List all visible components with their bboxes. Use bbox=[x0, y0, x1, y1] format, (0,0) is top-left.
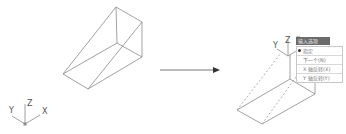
menu-item-specify[interactable]: 指定 bbox=[297, 47, 342, 56]
menu-list: 指定 下一个(N) X 轴反转(X) Y 轴反转(Y) bbox=[296, 46, 343, 83]
menu-item-flip-x[interactable]: X 轴反转(X) bbox=[297, 65, 342, 74]
ucs-z-label: Z bbox=[27, 99, 33, 108]
ucs-y-label: Y bbox=[8, 106, 14, 115]
menu-item-label: X 轴反转(X) bbox=[303, 66, 330, 72]
menu-item-label: 指定 bbox=[303, 48, 313, 54]
ucs-z-label-after: Z bbox=[285, 36, 291, 45]
menu-item-label: 下一个(N) bbox=[303, 57, 326, 63]
diagram-canvas: Z Y X Z Y X bbox=[0, 0, 346, 134]
ucs-y-label-after: Y bbox=[272, 41, 278, 50]
menu-item-next[interactable]: 下一个(N) bbox=[297, 56, 342, 65]
menu-item-flip-y[interactable]: Y 轴反转(Y) bbox=[297, 74, 342, 82]
ucs-x-label: X bbox=[42, 107, 48, 116]
menu-title: 输入选项 bbox=[296, 37, 330, 45]
ucs-icon-before bbox=[12, 104, 40, 126]
selected-bullet-icon bbox=[298, 49, 301, 52]
wedge-before bbox=[63, 7, 142, 89]
transition-arrow bbox=[160, 67, 220, 73]
menu-item-label: Y 轴反转(Y) bbox=[303, 75, 330, 81]
options-menu: 输入选项 指定 下一个(N) X 轴反转(X) Y 轴反转(Y) bbox=[296, 37, 343, 83]
